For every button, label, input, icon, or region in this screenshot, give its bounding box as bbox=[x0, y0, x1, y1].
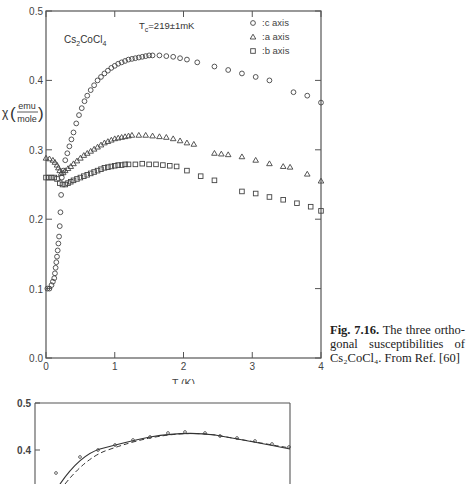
y-tick-label: 0.5 bbox=[29, 6, 43, 17]
chi-denominator: mole bbox=[17, 114, 37, 124]
marker-circle bbox=[185, 57, 190, 62]
marker-circle bbox=[53, 271, 58, 276]
marker-square bbox=[85, 172, 90, 177]
marker-circle bbox=[59, 193, 64, 198]
figure-label: Fig. 7.16. bbox=[330, 323, 379, 337]
marker-square bbox=[253, 191, 258, 196]
marker-circle bbox=[305, 93, 310, 98]
x-axis-label: T (K) bbox=[172, 377, 195, 384]
marker-square bbox=[185, 168, 190, 173]
marker-triangle bbox=[250, 34, 256, 39]
y-tick-label: 0.2 bbox=[29, 214, 43, 225]
marker-square bbox=[126, 162, 131, 167]
marker-circle bbox=[77, 113, 82, 118]
marker-square bbox=[95, 168, 100, 173]
marker-square bbox=[88, 171, 93, 176]
marker-triangle bbox=[253, 157, 259, 162]
marker-square bbox=[154, 162, 159, 167]
y-tick-label: 0.3 bbox=[29, 145, 43, 156]
marker-square bbox=[147, 162, 152, 167]
marker-circle bbox=[82, 99, 87, 104]
plot2-data-point bbox=[55, 472, 58, 475]
marker-circle bbox=[195, 60, 200, 65]
compound-annotation: Cs2CoCl4 bbox=[64, 34, 106, 47]
marker-triangle bbox=[170, 136, 176, 141]
fit-curve-solid bbox=[60, 433, 290, 484]
marker-circle bbox=[71, 130, 76, 135]
figure-caption: Fig. 7.16. The three ortho-gonal suscept… bbox=[330, 323, 465, 365]
marker-triangle bbox=[184, 140, 190, 145]
marker-triangle bbox=[267, 161, 273, 166]
marker-triangle bbox=[225, 152, 231, 157]
marker-circle bbox=[55, 248, 60, 253]
marker-circle bbox=[63, 158, 68, 163]
marker-square bbox=[82, 174, 87, 179]
plot2-data-point bbox=[79, 456, 82, 459]
left-paren: ( bbox=[10, 104, 16, 123]
series-b-axis bbox=[44, 161, 324, 213]
marker-square bbox=[240, 189, 245, 194]
legend-label: :c axis bbox=[262, 17, 289, 28]
marker-square bbox=[140, 161, 145, 166]
marker-circle bbox=[164, 54, 169, 59]
marker-circle bbox=[240, 71, 245, 76]
y-tick-label: 0.0 bbox=[29, 353, 43, 364]
marker-circle bbox=[267, 78, 272, 83]
marker-square bbox=[198, 174, 203, 179]
fit-comparison-chart-partial: 0.50.4 bbox=[0, 385, 467, 484]
marker-square bbox=[267, 195, 272, 200]
marker-square bbox=[212, 178, 217, 183]
marker-circle bbox=[150, 53, 155, 58]
marker-circle bbox=[55, 254, 60, 259]
marker-circle bbox=[58, 210, 63, 215]
marker-circle bbox=[85, 93, 90, 98]
marker-triangle bbox=[164, 135, 170, 140]
chi-numerator: emu bbox=[18, 101, 36, 111]
marker-square bbox=[75, 177, 80, 182]
marker-triangle bbox=[287, 164, 293, 169]
marker-circle bbox=[57, 234, 62, 239]
marker-square bbox=[308, 204, 313, 209]
marker-circle bbox=[253, 75, 258, 80]
marker-circle bbox=[178, 56, 183, 61]
marker-circle bbox=[251, 21, 256, 26]
x-tick-label: 4 bbox=[318, 361, 324, 372]
marker-square bbox=[167, 163, 172, 168]
x-tick-label: 3 bbox=[249, 361, 255, 372]
marker-triangle bbox=[212, 150, 218, 155]
marker-triangle bbox=[304, 171, 310, 176]
legend: :c axis:a axis:b axis bbox=[250, 17, 290, 56]
marker-circle bbox=[291, 90, 296, 95]
legend-label: :a axis bbox=[262, 31, 290, 42]
marker-circle bbox=[54, 260, 59, 265]
marker-triangle bbox=[150, 133, 156, 138]
plot2-y-tick-label: 0.5 bbox=[17, 398, 31, 409]
marker-square bbox=[161, 163, 166, 168]
marker-circle bbox=[171, 54, 176, 59]
marker-circle bbox=[92, 83, 97, 88]
marker-square bbox=[281, 197, 286, 202]
marker-square bbox=[174, 164, 179, 169]
marker-triangle bbox=[219, 151, 225, 156]
marker-circle bbox=[56, 241, 61, 246]
marker-circle bbox=[59, 175, 64, 180]
marker-triangle bbox=[191, 141, 197, 146]
marker-square bbox=[78, 175, 83, 180]
marker-square bbox=[92, 170, 97, 175]
plot-frame bbox=[46, 11, 321, 358]
marker-circle bbox=[226, 68, 231, 73]
legend-label: :b axis bbox=[262, 45, 290, 56]
marker-circle bbox=[74, 121, 79, 126]
x-tick-label: 2 bbox=[181, 361, 187, 372]
marker-square bbox=[133, 162, 138, 167]
plot2-y-tick-label: 0.4 bbox=[17, 445, 31, 456]
chi-symbol: χ bbox=[2, 106, 9, 120]
right-paren: ) bbox=[38, 104, 44, 123]
marker-triangle bbox=[136, 132, 142, 137]
marker-circle bbox=[69, 137, 74, 142]
marker-circle bbox=[157, 53, 162, 58]
y-tick-label: 0.4 bbox=[29, 75, 43, 86]
marker-square bbox=[295, 201, 300, 206]
marker-circle bbox=[212, 64, 217, 69]
x-tick-label: 1 bbox=[112, 361, 118, 372]
